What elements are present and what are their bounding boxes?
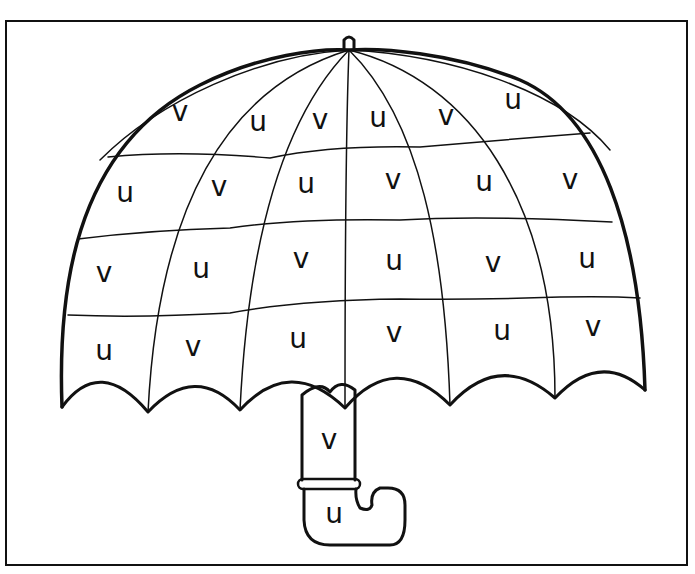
canopy-letter-v: v — [386, 319, 403, 347]
canopy-letter-v: v — [211, 173, 228, 201]
canopy-letter-v: v — [385, 166, 402, 194]
handle-collar — [298, 479, 360, 489]
canopy-letter-u: u — [297, 170, 315, 198]
canopy-letter-v: v — [293, 245, 310, 273]
canopy-letter-u: u — [192, 255, 210, 283]
canopy-seams — [68, 133, 640, 316]
handle-letter-v: v — [321, 426, 338, 454]
canopy-letter-u: u — [578, 245, 596, 273]
handle-letter-u: u — [325, 500, 343, 528]
canopy-letter-u: u — [289, 325, 307, 353]
canopy-outline — [61, 50, 645, 407]
canopy-letter-u: u — [385, 247, 403, 275]
canopy-letter-u: u — [249, 108, 267, 136]
canopy-letter-v: v — [172, 98, 189, 126]
canopy-letter-u: u — [493, 317, 511, 345]
canopy-letter-v: v — [312, 106, 329, 134]
canopy-letter-v: v — [485, 249, 502, 277]
canopy-letter-u: u — [475, 168, 493, 196]
umbrella-hook — [304, 488, 405, 545]
canopy-letter-v: v — [438, 102, 455, 130]
canopy-letter-u: u — [369, 104, 387, 132]
canopy-letter-v: v — [96, 259, 113, 287]
canopy-letter-u: u — [95, 337, 113, 365]
canopy-letter-v: v — [185, 333, 202, 361]
canopy-letter-v: v — [562, 166, 579, 194]
canopy-letter-v: v — [585, 313, 602, 341]
canopy-letter-u: u — [504, 86, 522, 114]
canopy-letter-u: u — [116, 179, 134, 207]
